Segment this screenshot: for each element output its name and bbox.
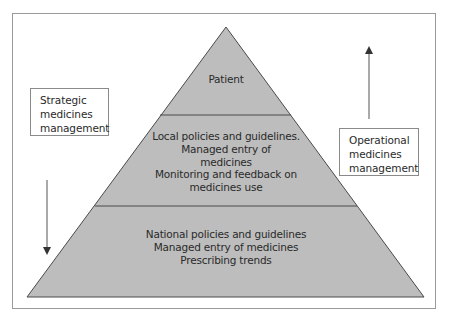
operational-label-box: Operational medicines management	[339, 128, 419, 176]
tier-middle-line: Managed entry of	[136, 143, 316, 156]
tier-middle-line: medicines	[136, 156, 316, 169]
tier-bottom-line: Managed entry of medicines	[126, 241, 326, 254]
strategic-label-box: Strategic medicines management	[30, 88, 109, 136]
tier-middle-line: Monitoring and feedback on	[136, 168, 316, 181]
operational-label-line: medicines	[349, 147, 418, 161]
tier-top-line: Patient	[176, 73, 276, 86]
tier-top-text: Patient	[176, 73, 276, 86]
operational-label-line: management	[349, 161, 418, 175]
tier-bottom-text: National policies and guidelines Managed…	[126, 228, 326, 266]
strategic-label-line: Strategic	[40, 93, 108, 107]
strategic-label-line: medicines	[40, 107, 108, 121]
tier-middle-text: Local policies and guidelines. Managed e…	[136, 130, 316, 194]
tier-middle-line: medicines use	[136, 181, 316, 194]
tier-bottom-line: Prescribing trends	[126, 254, 326, 267]
strategic-label-line: management	[40, 121, 108, 135]
tier-bottom-line: National policies and guidelines	[126, 228, 326, 241]
tier-middle-line: Local policies and guidelines.	[136, 130, 316, 143]
operational-label-line: Operational	[349, 133, 418, 147]
